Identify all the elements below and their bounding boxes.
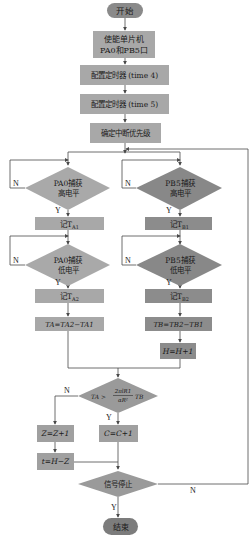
pb5-low-line1: PB5捕获: [165, 255, 195, 265]
yes-label-compare: Y: [106, 413, 112, 422]
yes-label-stop: Y: [111, 503, 117, 512]
compare-denominator: αR²: [118, 397, 128, 403]
pb5-high-line2: 高电平: [170, 188, 192, 198]
pb5-high-line1: PB5捕获: [165, 178, 195, 188]
no-label-stop: N: [190, 486, 196, 495]
t-result-label: t=H−Z: [42, 457, 70, 466]
pb5-low-line2: 低电平: [170, 265, 192, 275]
config-timer5-label: 配置定时器 (time 5): [91, 99, 158, 109]
h-counter-label: H=H+1: [162, 347, 193, 356]
interrupt-priority-label: 确定中断优先级: [101, 128, 151, 138]
ta-formula-label: TA=TA2−TA1: [45, 321, 94, 329]
config-timer4-label: 配置定时器 (time 4): [91, 70, 158, 80]
z-counter-label: Z=Z+1: [41, 429, 70, 438]
pa0-high-line1: PA0捕获: [54, 178, 84, 188]
yes-label-pb5-high: Y: [166, 206, 172, 215]
pa0-capture-low-decision: [25, 244, 110, 286]
yes-label-pa0-high: Y: [55, 206, 61, 215]
start-label: 开始: [116, 6, 134, 16]
no-label-pa0-low: N: [13, 256, 19, 265]
no-label-pb5-high: N: [125, 179, 131, 188]
yes-label-pa0-low: Y: [55, 278, 61, 287]
no-label-pb5-low: N: [125, 256, 131, 265]
compare-rhs: TB: [135, 393, 144, 400]
pa0-low-line1: PA0捕获: [54, 255, 84, 265]
c-counter-label: C=C+1: [104, 429, 133, 438]
no-label-pa0-high: N: [13, 179, 19, 188]
signal-stop-label: 信号停止: [104, 479, 133, 489]
pb5-capture-low-decision: [136, 244, 222, 286]
end-label: 结束: [113, 522, 129, 532]
compare-numerator: 2πlR1: [114, 388, 132, 394]
enable-ports-line1: 使能单片机: [104, 34, 144, 44]
tb-formula-label: TB=TB2−TB1: [153, 321, 203, 329]
enable-ports-line2: PA0和PB5口: [100, 46, 148, 55]
yes-label-pb5-low: Y: [166, 278, 172, 287]
flowchart: 开始 使能单片机 PA0和PB5口 配置定时器 (time 4) 配置定时器 (…: [0, 0, 251, 545]
pa0-low-line2: 低电平: [58, 265, 80, 275]
pa0-high-line2: 高电平: [58, 188, 80, 198]
no-label-compare: N: [64, 386, 70, 395]
compare-lhs: TA >: [91, 393, 106, 400]
